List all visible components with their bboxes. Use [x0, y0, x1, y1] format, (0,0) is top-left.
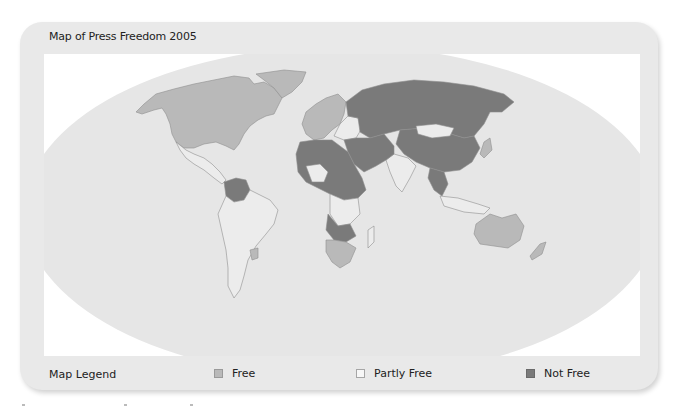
- legend-item-not-free: Not Free: [526, 367, 590, 380]
- legend-label-partly-free: Partly Free: [374, 367, 432, 380]
- legend-label-free: Free: [232, 367, 255, 380]
- legend-title: Map Legend: [49, 368, 116, 381]
- free-swatch-icon: [214, 369, 223, 378]
- not-free-swatch-icon: [526, 369, 535, 378]
- legend-item-partly-free: Partly Free: [356, 367, 432, 380]
- map-title: Map of Press Freedom 2005: [49, 30, 197, 43]
- map-card: Map of Press Freedom 2005: [20, 22, 658, 390]
- map-legend: Map Legend Free Partly Free Not Free: [20, 362, 658, 386]
- partly-free-swatch-icon: [356, 369, 365, 378]
- legend-item-free: Free: [214, 367, 255, 380]
- map-canvas: [44, 54, 640, 356]
- legend-label-not-free: Not Free: [544, 367, 590, 380]
- page-edge-marks: [0, 400, 680, 409]
- world-map: [44, 54, 640, 356]
